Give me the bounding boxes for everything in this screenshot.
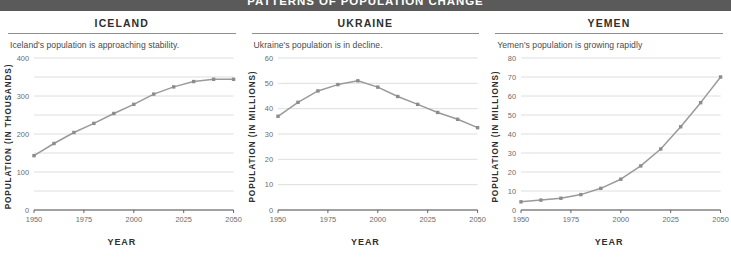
svg-text:2025: 2025 [663, 215, 679, 224]
chart-svg-holder-iceland: 010020030040019501975200020252050 [0, 52, 244, 252]
svg-text:200: 200 [17, 130, 29, 139]
svg-text:50: 50 [264, 79, 272, 88]
svg-text:10: 10 [508, 187, 516, 196]
panel-divider-yemen [495, 33, 723, 34]
header-banner: PATTERNS OF POPULATION CHANGE [0, 0, 731, 11]
svg-text:2025: 2025 [175, 215, 191, 224]
chart-iceland: POPULATION (IN THOUSANDS) 01002003004001… [0, 52, 244, 248]
chart-svg-holder-ukraine: 010203040506019501975200020252050 [244, 52, 488, 252]
svg-text:2050: 2050 [225, 215, 241, 224]
panel-subtitle-iceland: Iceland's population is approaching stab… [10, 40, 244, 50]
panel-ukraine: UKRAINE Ukraine's population is in decli… [244, 11, 488, 258]
svg-text:60: 60 [508, 92, 516, 101]
svg-text:20: 20 [264, 155, 272, 164]
chart-yemen: POPULATION (IN MILLIONS) 010203040506070… [487, 52, 731, 248]
svg-text:50: 50 [508, 111, 516, 120]
svg-text:1950: 1950 [269, 215, 285, 224]
panel-subtitle-ukraine: Ukraine's population is in decline. [254, 40, 488, 50]
svg-text:2000: 2000 [126, 215, 142, 224]
header-title: PATTERNS OF POPULATION CHANGE [0, 0, 731, 7]
svg-text:40: 40 [508, 130, 516, 139]
panel-container: ICELAND Iceland's population is approach… [0, 11, 731, 258]
svg-text:10: 10 [264, 180, 272, 189]
x-axis-label-iceland: YEAR [0, 237, 244, 247]
panel-iceland: ICELAND Iceland's population is approach… [0, 11, 244, 258]
x-axis-label-yemen: YEAR [487, 237, 731, 247]
svg-text:100: 100 [17, 168, 29, 177]
svg-text:1950: 1950 [513, 215, 529, 224]
svg-text:2050: 2050 [469, 215, 485, 224]
svg-text:30: 30 [508, 149, 516, 158]
svg-text:0: 0 [25, 206, 29, 215]
svg-text:300: 300 [17, 92, 29, 101]
x-axis-label-ukraine: YEAR [244, 237, 488, 247]
svg-text:60: 60 [264, 54, 272, 63]
chart-svg-holder-yemen: 0102030405060708019501975200020252050 [487, 52, 731, 252]
svg-text:80: 80 [508, 54, 516, 63]
svg-text:20: 20 [508, 168, 516, 177]
svg-text:2025: 2025 [419, 215, 435, 224]
panel-title-iceland: ICELAND [0, 17, 244, 29]
svg-text:40: 40 [264, 104, 272, 113]
svg-text:30: 30 [264, 130, 272, 139]
panel-title-ukraine: UKRAINE [244, 17, 488, 29]
panel-divider-ukraine [252, 33, 480, 34]
panel-yemen: YEMEN Yemen's population is growing rapi… [487, 11, 731, 258]
svg-text:70: 70 [508, 73, 516, 82]
svg-text:0: 0 [512, 206, 516, 215]
svg-text:1975: 1975 [563, 215, 579, 224]
svg-text:2000: 2000 [369, 215, 385, 224]
panel-title-yemen: YEMEN [487, 17, 731, 29]
svg-text:1950: 1950 [26, 215, 42, 224]
svg-text:2050: 2050 [713, 215, 729, 224]
chart-ukraine: POPULATION (IN MILLIONS) 010203040506019… [244, 52, 488, 248]
svg-text:0: 0 [268, 206, 272, 215]
panel-subtitle-yemen: Yemen's population is growing rapidly [497, 40, 731, 50]
svg-text:400: 400 [17, 54, 29, 63]
panel-divider-iceland [8, 33, 236, 34]
svg-text:1975: 1975 [76, 215, 92, 224]
svg-text:2000: 2000 [613, 215, 629, 224]
svg-text:1975: 1975 [319, 215, 335, 224]
